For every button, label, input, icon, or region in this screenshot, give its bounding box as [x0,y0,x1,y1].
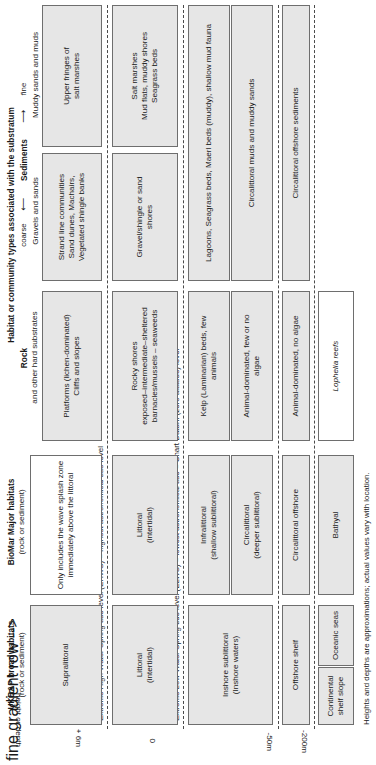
column-header-biomar: BioMar Major habitats [6,457,16,587]
biomar-box-littoral-label: Littoral (intertidal) [135,507,155,543]
ukbap-box-offshore-shelf[interactable]: Offshore shelf [282,605,310,725]
depth-label-zero: 0 [148,738,157,743]
ukbap-box-inshore-sublittoral-label: Inshore sublittoral (Inshore waters) [221,633,241,697]
rock-box-supralittoral[interactable]: Platforms (lichen-dominated) Cliffs and … [42,291,102,441]
column-header-habitat: Habitat or community types associated wi… [6,15,16,435]
ukbap-box-oceanic-seas-label: Oceanic seas [331,611,341,660]
rotated-figure-canvas: height or depth + 6m 0 -50m -200m UKBAP … [0,0,376,765]
column-subheader-ukbap: (rock or sediment) [17,605,27,725]
sediment-box-supralittoral-coarse[interactable]: Strand line communities Sand dunes, Mach… [42,153,102,281]
biomar-box-circalittoral[interactable]: Circalittoral (deeper sublittoral) [231,455,273,595]
biomar-box-supralittoral[interactable]: Only includes the wave splash zone immed… [30,455,102,595]
sediment-box-littoral-coarse[interactable]: Gravel/shingle or sand shores [112,153,178,281]
biomar-box-circalittoral-offshore[interactable]: Circalittoral offshore [282,455,310,595]
boundary-elws-line [183,5,184,729]
column-subheader-biomar: (rock or sediment) [17,457,27,587]
biomar-box-littoral[interactable]: Littoral (intertidal) [112,455,178,595]
sediment-box-supralittoral-fine[interactable]: Upper fringes of salt marshes [42,5,102,147]
depth-label-minus200m: -200m [300,730,309,753]
sediment-gradient-fine-label: fine [19,69,29,109]
sediment-box-supralittoral-fine-label: Upper fringes of salt marshes [62,47,82,105]
sediment-box-littoral-fine[interactable]: Salt marshes Mud flats, muddy shores Sea… [112,5,178,147]
sediment-box-littoral-fine-label: Salt marshes Mud flats, muddy shores Sea… [130,32,160,120]
rock-box-lophelia-reefs[interactable]: Lophelia reefs [318,291,354,441]
sediment-gradient-arrow-left: ⟵ [18,191,29,217]
sediment-box-littoral-coarse-label: Gravel/shingle or sand shores [135,177,155,258]
boundary-200m [314,5,315,729]
biomar-box-infralittoral[interactable]: Infralittoral (shallow sublittoral) [188,455,230,595]
boundary-50m [278,5,279,729]
boundary-200m-line [314,5,315,729]
boundary-ehws [107,5,108,729]
column-header-rock: Rock [19,303,29,413]
biomar-box-circalittoral-label: Circalittoral (deeper sublittoral) [242,491,262,558]
ukbap-box-littoral-label: Littoral (intertidal) [135,647,155,683]
biomar-box-circalittoral-offshore-label: Circalittoral offshore [291,489,301,561]
ukbap-box-inshore-sublittoral[interactable]: Inshore sublittoral (Inshore waters) [188,605,273,725]
depth-label-minus50m: -50m [265,733,274,751]
ukbap-box-continental-shelf-slope[interactable]: Continental shelf slope [318,667,354,725]
rock-box-lophelia-reefs-label: Lophelia reefs [331,341,341,392]
column-subheader-rock: and other hard substrates [30,290,40,425]
rock-box-animal-dominated-few-algae[interactable]: Animal-dominated, few or no algae [231,291,273,441]
rock-box-animal-dominated-few-algae-label: Animal-dominated, few or no algae [242,314,262,417]
depth-label-plus6m: + 6m [74,729,83,747]
ukbap-box-supralittoral-label: Supralittoral [61,643,71,686]
biomar-box-bathyal[interactable]: Bathyal [318,455,354,595]
sediment-box-circalittoral-offshore-sediments[interactable]: Circalittoral offshore sediments [282,5,310,281]
rock-box-supralittoral-label: Platforms (lichen-dominated) Cliffs and … [62,314,82,417]
diagram-sheet: height or depth + 6m 0 -50m -200m UKBAP … [0,0,376,765]
rock-box-animal-dominated-no-algae[interactable]: Animal-dominated, no algae [282,291,310,441]
biomar-box-bathyal-label: Bathyal [331,512,341,539]
sediment-box-circalittoral-offshore-sediments-label: Circalittoral offshore sediments [291,88,301,199]
sediment-box-maerl-lagoons-label: Lagoons, Seagrass beds, Maerl beds (mudd… [204,24,214,262]
biomar-box-supralittoral-label: Only includes the wave splash zone immed… [56,458,76,592]
rock-box-kelp-beds[interactable]: Kelp (Laminarian) beds, few animals [188,291,230,441]
ukbap-box-littoral[interactable]: Littoral (intertidal) [112,605,178,725]
rock-box-littoral-label: Rocky shores exposed–intermediate–shelte… [130,307,160,424]
sediment-box-supralittoral-coarse-label: Strand line communities Sand dunes, Mach… [57,173,87,261]
biomar-box-infralittoral-label: Infralittoral (shallow sublittoral) [199,490,219,559]
ukbap-box-offshore-shelf-label: Offshore shelf [291,640,301,690]
rock-box-kelp-beds-label: Kelp (Laminarian) beds, few animals [199,316,219,417]
sediment-box-circalittoral-gravels-muds[interactable]: Circalittoral muds and muddy sands [231,5,273,281]
sediment-fine-caption: Muddy sands and muds [31,5,41,145]
ukbap-box-continental-shelf-slope-label: Continental shelf slope [326,670,346,722]
boundary-50m-line [278,5,279,729]
sediment-coarse-caption: Gravels and sands [31,151,41,271]
ukbap-box-supralittoral[interactable]: Supralittoral [30,605,102,725]
boundary-elws [183,5,184,729]
sediment-box-circalittoral-gravels-muds-label: Circalittoral muds and muddy sands [247,79,257,208]
sediment-box-maerl-lagoons[interactable]: Lagoons, Seagrass beds, Maerl beds (mudd… [188,5,230,281]
ukbap-box-oceanic-seas[interactable]: Oceanic seas [318,605,354,666]
figure-footnote: Heights and depths are approximations; a… [362,472,371,725]
rock-box-animal-dominated-no-algae-label: Animal-dominated, no algae [291,316,301,417]
boundary-ehws-line [107,5,108,729]
rock-box-littoral[interactable]: Rocky shores exposed–intermediate–shelte… [112,291,178,441]
column-header-ukbap: UKBAP broad habitats [6,605,16,725]
sediment-gradient-coarse-label: coarse [19,210,29,260]
